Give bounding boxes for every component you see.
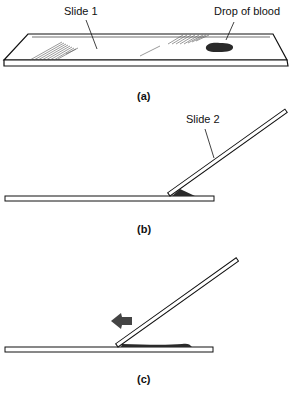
slide-1-side-view bbox=[5, 347, 213, 352]
slide-2-leader bbox=[205, 129, 214, 158]
drop-of-blood-label: Drop of blood bbox=[214, 5, 280, 17]
slide-2-label: Slide 2 bbox=[186, 113, 220, 125]
slide-1 bbox=[4, 34, 288, 66]
slide-2-angled bbox=[116, 258, 239, 347]
slide-1-side-view bbox=[5, 196, 214, 201]
panel-b: Slide 2 (b) bbox=[5, 109, 287, 235]
panel-a: Slide 1 Drop of blood (a) bbox=[4, 5, 288, 102]
panel-c: (c) bbox=[5, 258, 238, 385]
blood-drop bbox=[206, 43, 233, 52]
push-direction-arrow-icon bbox=[111, 313, 132, 329]
blood-smear-diagram: Slide 1 Drop of blood (a) Slide 2 (b) (c… bbox=[0, 0, 292, 393]
caption-a: (a) bbox=[137, 90, 151, 102]
caption-b: (b) bbox=[137, 223, 151, 235]
slide-1-label: Slide 1 bbox=[64, 5, 98, 17]
caption-c: (c) bbox=[137, 373, 151, 385]
blood-smear bbox=[121, 344, 192, 347]
